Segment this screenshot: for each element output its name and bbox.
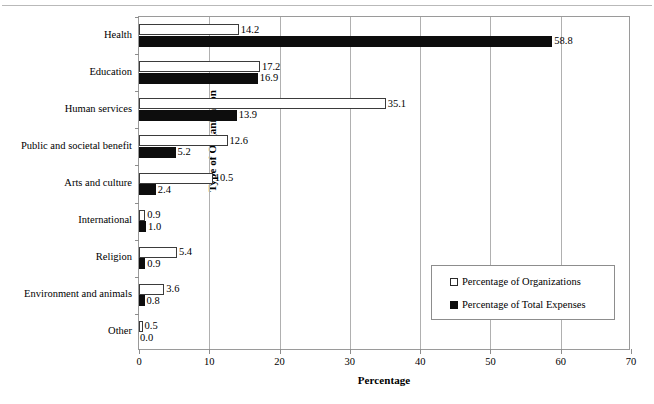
y-tick: [135, 240, 139, 241]
x-tick: [561, 349, 562, 354]
bar-total-expenses: 0.8: [139, 295, 145, 306]
y-tick: [135, 314, 139, 315]
bar-total-expenses: 5.2: [139, 147, 176, 158]
bar-organizations: 35.1: [139, 98, 386, 109]
bar-total-expenses: 13.9: [139, 110, 237, 121]
bar-value-label: 0.5: [145, 321, 158, 332]
bar-value-label: 0.9: [147, 210, 160, 221]
x-tick-label: 60: [555, 357, 566, 368]
chart-figure: Type of Organization 010203040506070 Hea…: [0, 0, 654, 404]
bar-value-label: 5.4: [179, 247, 192, 258]
x-tick-label: 50: [485, 357, 496, 368]
bar-total-expenses: 58.8: [139, 36, 552, 47]
bar-value-label: 5.2: [178, 147, 191, 158]
category-label: International: [0, 215, 132, 226]
category-label: Public and societal benefit: [0, 141, 132, 152]
header-divider: [2, 5, 652, 6]
bar-value-label: 58.8: [554, 36, 572, 47]
bar-value-label: 10.5: [215, 173, 233, 184]
legend-entry-organizations: Percentage of Organizations: [450, 276, 581, 287]
bar-organizations: 10.5: [139, 173, 213, 184]
bar-value-label: 35.1: [388, 99, 406, 110]
legend-swatch-icon-total-expenses: [450, 301, 458, 309]
bar-value-label: 1.0: [148, 221, 161, 232]
x-tick: [631, 349, 632, 354]
x-tick: [490, 349, 491, 354]
bar-value-label: 0.9: [147, 258, 160, 269]
x-tick: [420, 349, 421, 354]
bar-organizations: 3.6: [139, 284, 164, 295]
y-tick: [135, 54, 139, 55]
x-tick: [139, 349, 140, 354]
x-tick: [209, 349, 210, 354]
legend-label-total-expenses: Percentage of Total Expenses: [462, 299, 586, 310]
chart-legend: Percentage of Organizations Percentage o…: [431, 265, 615, 320]
x-tick-label: 30: [345, 357, 356, 368]
bar-value-label: 3.6: [166, 284, 179, 295]
gridline: [420, 17, 421, 349]
category-label: Education: [0, 67, 132, 78]
x-tick-label: 40: [415, 357, 426, 368]
bar-value-label: 16.9: [260, 73, 278, 84]
plot-area: Type of Organization 010203040506070 Hea…: [138, 16, 630, 350]
bar-value-label: 12.6: [230, 136, 248, 147]
x-tick-label: 20: [274, 357, 285, 368]
y-tick: [135, 165, 139, 166]
x-tick-label: 10: [204, 357, 215, 368]
y-tick: [135, 277, 139, 278]
x-tick: [280, 349, 281, 354]
legend-label-organizations: Percentage of Organizations: [462, 276, 581, 287]
bar-organizations: 17.2: [139, 61, 260, 72]
category-label: Human services: [0, 104, 132, 115]
bar-organizations: 14.2: [139, 24, 239, 35]
x-tick-label: 0: [136, 357, 141, 368]
y-tick: [135, 203, 139, 204]
bar-value-label: 17.2: [262, 61, 280, 72]
bar-organizations: 0.9: [139, 210, 145, 221]
y-tick: [135, 17, 139, 18]
bar-total-expenses: 16.9: [139, 73, 258, 84]
bar-organizations: 0.5: [139, 321, 143, 332]
category-label: Other: [0, 326, 132, 337]
category-label: Arts and culture: [0, 178, 132, 189]
legend-entry-total-expenses: Percentage of Total Expenses: [450, 299, 586, 310]
y-tick: [135, 128, 139, 129]
x-axis-title: Percentage: [139, 374, 629, 386]
bar-organizations: 12.6: [139, 135, 228, 146]
bar-total-expenses: 1.0: [139, 221, 146, 232]
gridline: [350, 17, 351, 349]
bar-total-expenses: 2.4: [139, 184, 156, 195]
x-tick-label: 70: [626, 357, 637, 368]
category-label: Religion: [0, 252, 132, 263]
bar-value-label: 2.4: [158, 184, 171, 195]
legend-swatch-icon-organizations: [450, 278, 458, 286]
bar-value-label: 0.0: [140, 333, 153, 344]
bar-value-label: 14.2: [241, 24, 259, 35]
y-tick: [135, 91, 139, 92]
bar-value-label: 13.9: [239, 110, 257, 121]
bar-total-expenses: 0.9: [139, 258, 145, 269]
category-label: Environment and animals: [0, 289, 132, 300]
bar-organizations: 5.4: [139, 247, 177, 258]
category-label: Health: [0, 30, 132, 41]
x-tick: [350, 349, 351, 354]
bar-value-label: 0.8: [147, 296, 160, 307]
